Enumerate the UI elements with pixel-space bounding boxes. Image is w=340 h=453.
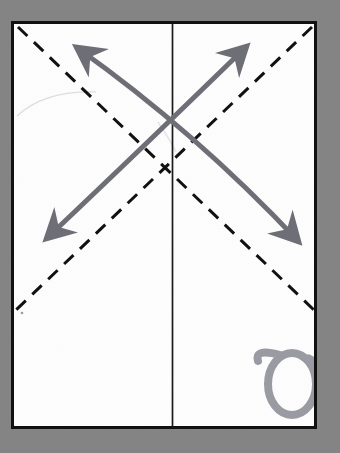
faint-dot-lower-left-mark (21, 312, 24, 315)
origami-diagram-root: Origami fold step diagram Rectangular pa… (0, 0, 340, 453)
origami-figure-svg (0, 0, 340, 453)
